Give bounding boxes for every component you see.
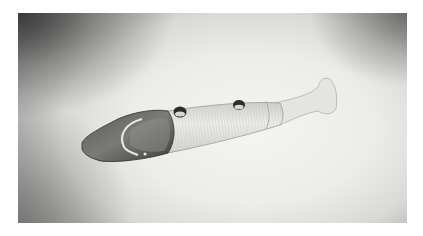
finger-hole-1-inner	[175, 112, 185, 117]
finger-hole-2-inner	[235, 105, 244, 110]
fish-object	[82, 78, 337, 161]
photograph	[18, 13, 407, 223]
eye-dot	[144, 153, 147, 156]
fish-whistle-illustration	[18, 13, 407, 223]
